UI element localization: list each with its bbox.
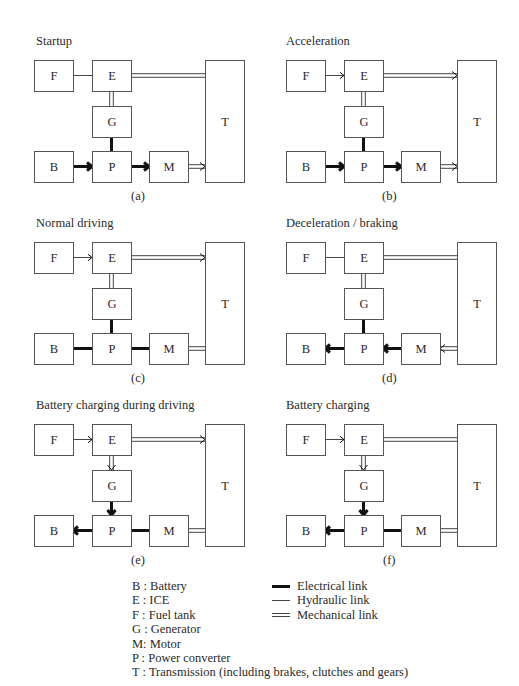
block-g: G xyxy=(345,471,384,502)
legend-abbrev: G : Generator xyxy=(132,622,408,636)
block-e: E xyxy=(345,425,384,456)
legend-abbrev: M: Motor xyxy=(132,637,408,651)
block-label: E xyxy=(108,433,116,447)
blocks: FEGBPMT xyxy=(35,425,245,547)
block-label: E xyxy=(108,69,116,83)
diagram-e: FEGBPMT xyxy=(0,398,260,580)
mechanical-link-swatch xyxy=(272,613,290,617)
blocks: FEGBPMT xyxy=(287,61,497,183)
block-b: B xyxy=(287,334,326,365)
panel-caption: (a) xyxy=(131,189,145,204)
block-label: F xyxy=(303,69,310,83)
panel-a: Startup FEGBPMT (a) xyxy=(0,34,260,216)
block-label: P xyxy=(361,524,368,538)
legend-abbrev: P : Power converter xyxy=(132,651,408,665)
block-f: F xyxy=(35,425,74,456)
block-label: E xyxy=(360,433,368,447)
blocks: FEGBPMT xyxy=(35,61,245,183)
block-label: T xyxy=(473,115,481,129)
block-label: M xyxy=(163,524,174,538)
block-b: B xyxy=(35,334,74,365)
block-label: P xyxy=(109,160,116,174)
block-label: E xyxy=(108,251,116,265)
block-p: P xyxy=(93,334,132,365)
block-label: G xyxy=(107,297,116,311)
block-e: E xyxy=(93,61,132,92)
block-m: M xyxy=(402,516,441,547)
panel-caption: (c) xyxy=(131,371,145,386)
block-label: M xyxy=(415,342,426,356)
panel-b: Acceleration FEGBPMT (b) xyxy=(260,34,519,216)
hydraulic-link-swatch xyxy=(272,600,290,601)
block-m: M xyxy=(150,152,189,183)
panel-f: Battery charging FEGBPMT (f) xyxy=(260,398,519,580)
block-b: B xyxy=(35,152,74,183)
diagram-a: FEGBPMT xyxy=(0,34,260,216)
panel-d: Deceleration / braking FEGBPMT (d) xyxy=(260,216,519,398)
legend-label: Hydraulic link xyxy=(297,593,370,607)
block-f: F xyxy=(35,61,74,92)
block-label: T xyxy=(221,297,229,311)
block-t: T xyxy=(458,61,497,183)
block-label: F xyxy=(51,433,58,447)
block-p: P xyxy=(93,516,132,547)
blocks: FEGBPMT xyxy=(35,243,245,365)
block-m: M xyxy=(150,334,189,365)
panel-caption: (b) xyxy=(382,189,397,204)
block-label: P xyxy=(361,342,368,356)
block-label: P xyxy=(109,524,116,538)
block-p: P xyxy=(93,152,132,183)
block-label: T xyxy=(473,479,481,493)
block-label: B xyxy=(302,342,310,356)
block-t: T xyxy=(206,61,245,183)
block-m: M xyxy=(402,152,441,183)
block-e: E xyxy=(93,425,132,456)
block-label: T xyxy=(473,297,481,311)
block-label: F xyxy=(303,433,310,447)
block-e: E xyxy=(345,243,384,274)
block-g: G xyxy=(93,471,132,502)
block-label: G xyxy=(359,115,368,129)
legend-abbrev: T : Transmission (including brakes, clut… xyxy=(132,665,408,679)
block-label: G xyxy=(107,479,116,493)
block-label: B xyxy=(50,342,58,356)
block-label: B xyxy=(50,524,58,538)
block-f: F xyxy=(287,425,326,456)
block-label: T xyxy=(221,115,229,129)
block-b: B xyxy=(35,516,74,547)
diagram-c: FEGBPMT xyxy=(0,216,260,398)
block-label: M xyxy=(163,160,174,174)
block-b: B xyxy=(287,516,326,547)
block-label: G xyxy=(107,115,116,129)
block-label: F xyxy=(51,251,58,265)
block-g: G xyxy=(93,289,132,320)
block-g: G xyxy=(345,289,384,320)
block-g: G xyxy=(93,107,132,138)
block-label: G xyxy=(359,297,368,311)
block-e: E xyxy=(93,243,132,274)
block-label: F xyxy=(303,251,310,265)
block-t: T xyxy=(206,425,245,547)
block-label: M xyxy=(415,524,426,538)
block-m: M xyxy=(150,516,189,547)
block-e: E xyxy=(345,61,384,92)
blocks: FEGBPMT xyxy=(287,425,497,547)
block-label: P xyxy=(109,342,116,356)
electrical-link-swatch xyxy=(272,585,290,588)
block-p: P xyxy=(345,152,384,183)
legend-label: Electrical link xyxy=(297,579,367,593)
panel-caption: (e) xyxy=(131,553,145,568)
block-b: B xyxy=(287,152,326,183)
block-label: B xyxy=(302,160,310,174)
block-t: T xyxy=(458,425,497,547)
block-t: T xyxy=(206,243,245,365)
block-label: G xyxy=(359,479,368,493)
block-label: P xyxy=(361,160,368,174)
block-g: G xyxy=(345,107,384,138)
block-label: B xyxy=(302,524,310,538)
panel-e: Battery charging during driving FEGBPMT … xyxy=(0,398,260,580)
block-label: B xyxy=(50,160,58,174)
block-p: P xyxy=(345,334,384,365)
panel-caption: (d) xyxy=(382,371,397,386)
block-label: E xyxy=(360,251,368,265)
